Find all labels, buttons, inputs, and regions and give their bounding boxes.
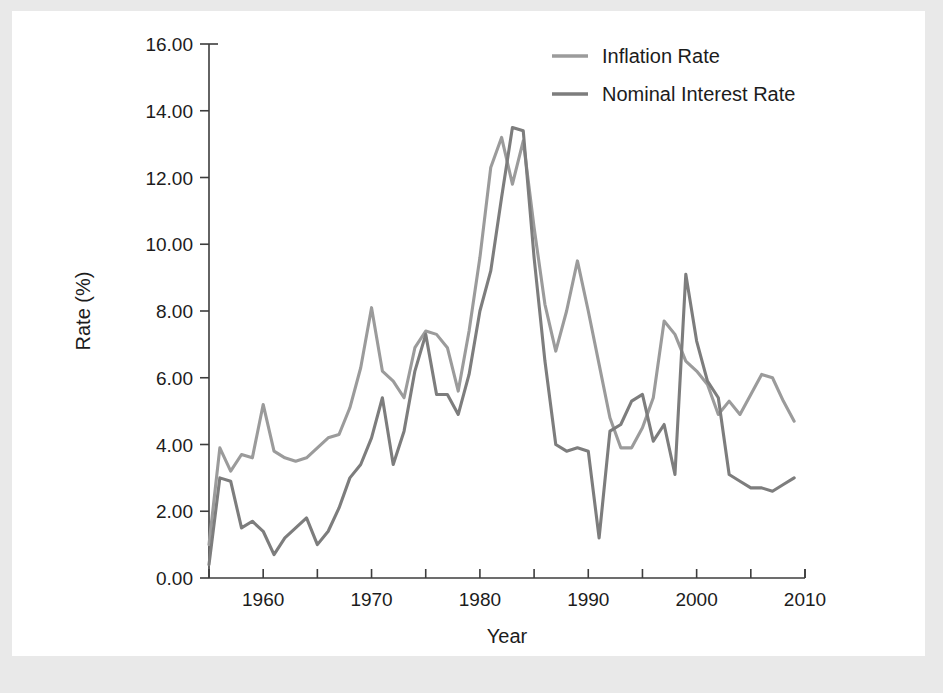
x-tick-label: 1990 — [567, 589, 609, 610]
y-tick-group: 0.002.004.006.008.0010.0012.0014.0016.00 — [145, 34, 209, 589]
y-tick-label: 0.00 — [156, 568, 193, 589]
legend-label-1: Nominal Interest Rate — [602, 83, 795, 105]
series-line-nominal-interest-rate — [209, 127, 794, 564]
series-group — [209, 127, 794, 564]
x-tick-label: 1960 — [242, 589, 284, 610]
y-tick-label: 10.00 — [145, 234, 193, 255]
x-tick-label: 2000 — [675, 589, 717, 610]
axis-spines — [209, 44, 805, 578]
y-tick-label: 6.00 — [156, 368, 193, 389]
figure-root: 0.002.004.006.008.0010.0012.0014.0016.00… — [0, 0, 943, 693]
x-tick-label: 1970 — [350, 589, 392, 610]
x-axis-title: Year — [487, 625, 528, 647]
x-tick-label: 2010 — [784, 589, 826, 610]
y-tick-label: 8.00 — [156, 301, 193, 322]
y-axis-title: Rate (%) — [72, 272, 94, 351]
y-tick-label: 4.00 — [156, 435, 193, 456]
legend-label-0: Inflation Rate — [602, 45, 720, 67]
chart-legend: Inflation RateNominal Interest Rate — [552, 45, 795, 105]
y-tick-label: 16.00 — [145, 34, 193, 55]
x-tick-group: 196019701980199020002010 — [209, 569, 826, 610]
line-chart: 0.002.004.006.008.0010.0012.0014.0016.00… — [12, 11, 925, 656]
y-tick-label: 12.00 — [145, 168, 193, 189]
y-tick-label: 14.00 — [145, 101, 193, 122]
y-tick-label: 2.00 — [156, 501, 193, 522]
chart-card: 0.002.004.006.008.0010.0012.0014.0016.00… — [12, 11, 925, 656]
x-tick-label: 1980 — [459, 589, 501, 610]
